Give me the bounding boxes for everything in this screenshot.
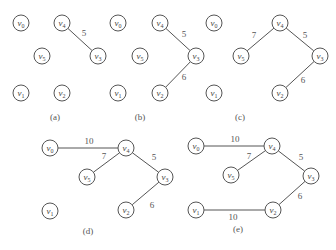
edge-weight: 10 [229,212,239,222]
vertex-v4: v4 [54,15,70,31]
panel-b: 56v0v4v5v3v1v2(b) [110,15,204,122]
vertex-v5: v5 [34,48,50,64]
edge-weight: 7 [247,151,252,161]
vertex-v3: v3 [90,48,106,64]
edge: 6 [279,181,305,204]
vertex-v4: v4 [152,15,168,31]
panel-caption: (b) [135,112,146,122]
edge-weight: 10 [231,134,241,144]
edge: 6 [166,62,191,88]
edge: 7 [238,151,266,171]
panel-caption: (a) [50,112,60,122]
vertex-v3: v3 [157,169,173,185]
panel-d: 10756v0v4v5v3v1v2(d) [42,136,173,236]
edge-line [68,28,92,50]
edge: 5 [132,152,158,172]
edge: 5 [166,28,190,50]
vertex-v0: v0 [110,15,126,31]
edge: 6 [132,182,159,210]
vertex-v1: v1 [13,85,29,101]
vertex-v2: v2 [54,85,70,101]
edge-line [286,28,314,51]
vertex-v2: v2 [152,85,168,101]
vertex-v5: v5 [79,169,95,185]
vertex-v1: v1 [188,202,204,218]
edge-line [166,62,191,88]
vertex-v3: v3 [188,48,204,64]
vertex-v4: v4 [272,15,288,31]
panel-caption: (e) [233,224,243,234]
vertex-v4: v4 [264,138,280,154]
vertex-v1: v1 [110,85,126,101]
edge-weight: 7 [102,151,107,161]
vertex-v5: v5 [132,48,148,64]
vertex-v0: v0 [42,140,58,156]
edge: 10 [204,134,264,146]
panel-a: 5v0v4v5v3v1v2(a) [13,15,106,122]
panel-e: 1075610v0v4v5v3v1v2(e) [188,134,319,234]
edge-weight: 6 [150,200,155,210]
vertex-v0: v0 [206,15,222,31]
panel-caption: (c) [235,112,245,122]
vertex-v0: v0 [188,138,204,154]
vertex-v0: v0 [13,15,29,31]
edge: 10 [58,136,118,148]
edge: 6 [286,61,314,87]
vertex-v4: v4 [118,140,134,156]
edge-weight: 6 [298,191,303,201]
vertex-v5: v5 [223,167,239,183]
edge-weight: 5 [82,28,87,38]
vertex-v2: v2 [265,202,281,218]
edge-line [238,151,266,171]
vertex-v1: v1 [206,85,222,101]
mst-diagram: 5v0v4v5v3v1v2(a)56v0v4v5v3v1v2(b)756v0v4… [0,0,336,250]
panel-caption: (d) [83,226,94,236]
edge-weight: 5 [152,152,157,162]
edge: 10 [204,210,265,222]
vertex-v2: v2 [272,85,288,101]
vertex-v3: v3 [312,48,328,64]
edge: 7 [247,28,274,51]
panel-c: 756v0v4v5v3v1v2(c) [206,15,328,122]
vertex-v5: v5 [233,48,249,64]
edge-line [93,153,119,172]
edge: 5 [286,28,314,51]
edge-weight: 5 [303,30,308,40]
vertex-v2: v2 [118,202,134,218]
edge-weight: 6 [301,75,306,85]
edge-line [132,182,159,205]
edge-line [166,28,190,50]
edge: 5 [278,151,304,171]
edge-weight: 7 [252,30,257,40]
edge: 5 [68,28,92,51]
edge: 7 [93,151,119,172]
edge-weight: 10 [85,136,95,146]
edge-weight: 5 [299,152,304,162]
edge-weight: 5 [182,29,187,39]
vertex-v3: v3 [303,168,319,184]
vertex-v1: v1 [42,203,58,219]
edge-weight: 6 [182,72,187,82]
